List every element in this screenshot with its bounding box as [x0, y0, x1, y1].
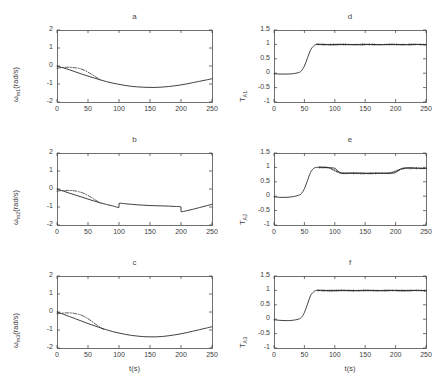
- x-tick-a-4: 200: [167, 105, 195, 112]
- x-tick-f-1: 50: [290, 351, 318, 358]
- x-tick-f-0: 0: [260, 351, 288, 358]
- plot-area-d: [274, 30, 428, 104]
- y-tick-c-4: 2: [5, 271, 53, 278]
- x-tick-b-4: 200: [167, 228, 195, 235]
- x-tick-b-1: 50: [74, 228, 102, 235]
- x-tick-f-2: 100: [321, 351, 349, 358]
- plot-frame: [275, 277, 427, 349]
- x-tick-c-2: 100: [105, 351, 133, 358]
- x-tick-b-0: 0: [43, 228, 71, 235]
- plot-area-a: [57, 30, 214, 104]
- series-actual-f: [274, 290, 426, 320]
- y-tick-a-3: 1: [5, 43, 53, 50]
- y-tick-e-3: 0.5: [222, 177, 270, 184]
- x-tick-c-4: 200: [167, 351, 195, 358]
- x-tick-f-4: 200: [382, 351, 410, 358]
- x-tick-e-5: 250: [412, 228, 436, 235]
- y-tick-e-5: 1.5: [222, 148, 270, 155]
- y-tick-b-3: 1: [5, 166, 53, 173]
- subplot-title-c: c: [57, 258, 212, 267]
- x-tick-f-5: 250: [412, 351, 436, 358]
- y-tick-d-4: 1: [222, 39, 270, 46]
- y-tick-f-3: 0.5: [222, 300, 270, 307]
- subplot-title-a: a: [57, 12, 212, 21]
- x-tick-e-4: 200: [382, 228, 410, 235]
- plot-area-c: [57, 276, 214, 350]
- y-tick-c-3: 1: [5, 289, 53, 296]
- x-tick-d-2: 100: [321, 105, 349, 112]
- series-actual-a: [57, 66, 212, 87]
- x-tick-e-3: 150: [351, 228, 379, 235]
- x-tick-a-3: 150: [136, 105, 164, 112]
- y-tick-f-4: 1: [222, 285, 270, 292]
- series-actual-c: [57, 312, 212, 337]
- y-tick-d-1: -0.5: [222, 83, 270, 90]
- series-actual-b: [57, 189, 212, 212]
- y-tick-a-2: 0: [5, 61, 53, 68]
- plot-frame: [58, 31, 213, 103]
- y-tick-a-0: -2: [5, 97, 53, 104]
- x-tick-a-0: 0: [43, 105, 71, 112]
- x-axis-label-f: t(s): [274, 364, 426, 373]
- y-tick-c-2: 0: [5, 307, 53, 314]
- x-tick-f-3: 150: [351, 351, 379, 358]
- y-tick-f-1: -0.5: [222, 329, 270, 336]
- y-tick-b-4: 2: [5, 148, 53, 155]
- plot-frame: [58, 277, 213, 349]
- plot-frame: [275, 154, 427, 226]
- y-tick-c-1: -1: [5, 325, 53, 332]
- y-tick-e-4: 1: [222, 162, 270, 169]
- plot-frame: [275, 31, 427, 103]
- y-tick-d-2: 0: [222, 68, 270, 75]
- y-tick-f-0: -1: [222, 343, 270, 350]
- series-actual-d: [274, 44, 426, 74]
- y-tick-e-0: -1: [222, 220, 270, 227]
- y-tick-b-0: -2: [5, 220, 53, 227]
- subplot-title-f: f: [274, 258, 426, 267]
- plot-area-e: [274, 153, 428, 227]
- plot-area-b: [57, 153, 214, 227]
- series-actual-e: [274, 167, 426, 197]
- subplot-title-e: e: [274, 135, 426, 144]
- y-tick-b-1: -1: [5, 202, 53, 209]
- x-axis-label-c: t(s): [57, 364, 212, 373]
- y-tick-a-1: -1: [5, 79, 53, 86]
- plot-area-f: [274, 276, 428, 350]
- y-tick-e-1: -0.5: [222, 206, 270, 213]
- x-tick-d-4: 200: [382, 105, 410, 112]
- x-tick-b-3: 150: [136, 228, 164, 235]
- y-tick-d-5: 1.5: [222, 25, 270, 32]
- y-tick-d-0: -1: [222, 97, 270, 104]
- y-tick-f-5: 1.5: [222, 271, 270, 278]
- figure-canvas: aωm1(rad/s)-2-1012050100150200250dTA1-1-…: [0, 0, 436, 378]
- subplot-title-b: b: [57, 135, 212, 144]
- subplot-e: eTA2-1-0.500.511.5050100150200250: [222, 131, 434, 255]
- x-tick-c-1: 50: [74, 351, 102, 358]
- subplot-c: cωm3(rad/s)-2-1012050100150200250t(s): [5, 254, 220, 378]
- x-tick-b-2: 100: [105, 228, 133, 235]
- subplot-b: bωm2(rad/s)-2-1012050100150200250: [5, 131, 220, 255]
- y-tick-a-4: 2: [5, 25, 53, 32]
- y-tick-d-3: 0.5: [222, 54, 270, 61]
- x-tick-e-1: 50: [290, 228, 318, 235]
- x-tick-a-1: 50: [74, 105, 102, 112]
- x-tick-d-1: 50: [290, 105, 318, 112]
- subplot-d: dTA1-1-0.500.511.5050100150200250: [222, 8, 434, 132]
- x-tick-c-3: 150: [136, 351, 164, 358]
- x-tick-d-0: 0: [260, 105, 288, 112]
- subplot-title-d: d: [274, 12, 426, 21]
- x-tick-e-0: 0: [260, 228, 288, 235]
- y-tick-b-2: 0: [5, 184, 53, 191]
- x-tick-c-0: 0: [43, 351, 71, 358]
- plot-frame: [58, 154, 213, 226]
- x-tick-e-2: 100: [321, 228, 349, 235]
- subplot-f: fTA3-1-0.500.511.5050100150200250t(s): [222, 254, 434, 378]
- y-tick-f-2: 0: [222, 314, 270, 321]
- x-tick-d-3: 150: [351, 105, 379, 112]
- x-tick-a-2: 100: [105, 105, 133, 112]
- y-tick-c-0: -2: [5, 343, 53, 350]
- y-tick-e-2: 0: [222, 191, 270, 198]
- x-tick-d-5: 250: [412, 105, 436, 112]
- subplot-a: aωm1(rad/s)-2-1012050100150200250: [5, 8, 220, 132]
